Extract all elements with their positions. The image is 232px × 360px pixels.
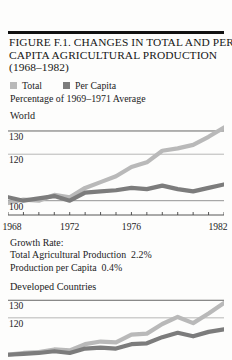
growth-rate-row-total: Total Agricultural Production 2.2%	[10, 249, 225, 261]
figure-title-line-3: (1968–1982)	[9, 61, 227, 74]
world-ytick-label-100: 100	[9, 202, 23, 212]
chart-plot-developed-countries: 130 120	[8, 295, 224, 360]
chart-legend: Total Per Capita	[10, 79, 225, 92]
xtick-label-1972: 1972	[60, 222, 79, 232]
panel-title-world: World	[10, 110, 35, 121]
top-rule-divider	[8, 31, 224, 34]
figure-title-line-1: FIGURE F.1. CHANGES IN TOTAL AND PER	[9, 36, 227, 49]
legend-item-per-capita: Per Capita	[63, 79, 116, 92]
chart-x-axis: 1968 1972 1976 1982	[8, 212, 224, 236]
figure-title: FIGURE F.1. CHANGES IN TOTAL AND PER CAP…	[9, 36, 227, 74]
xtick-label-1968: 1968	[2, 222, 21, 232]
growth-rate-row-per-capita-label: Production per Capita	[10, 262, 97, 273]
world-chart-svg	[8, 124, 224, 210]
figure-page: FIGURE F.1. CHANGES IN TOTAL AND PER CAP…	[0, 0, 232, 360]
growth-rate-row-per-capita: Production per Capita 0.4%	[10, 262, 225, 274]
figure-title-line-2: CAPITA AGRICULTURAL PRODUCTION	[9, 49, 227, 62]
legend-item-total: Total	[10, 79, 42, 92]
growth-rate-row-per-capita-value: 0.4%	[102, 262, 123, 273]
growth-rate-row-total-value: 2.2%	[131, 249, 152, 260]
legend-label-per-capita: Per Capita	[75, 81, 116, 91]
x-axis-ticks-svg	[8, 212, 224, 222]
legend-swatch-per-capita-icon	[63, 82, 70, 89]
growth-rate-block: Growth Rate: Total Agricultural Producti…	[10, 237, 225, 274]
chart-subtitle: Percentage of 1969–1971 Average	[10, 93, 146, 104]
growth-rate-row-total-label: Total Agricultural Production	[10, 249, 126, 260]
panel-title-developed-countries: Developed Countries	[10, 281, 96, 292]
developed-gridlines	[8, 300, 224, 318]
developed-ytick-label-130: 130	[9, 301, 23, 311]
world-ytick-label-130: 130	[9, 132, 23, 142]
world-ytick-label-120: 120	[9, 155, 23, 165]
growth-rate-heading: Growth Rate:	[10, 237, 225, 249]
developed-chart-svg	[8, 295, 224, 360]
legend-swatch-total-icon	[10, 82, 17, 89]
xtick-label-1976: 1976	[122, 222, 141, 232]
developed-ytick-label-120: 120	[9, 319, 23, 329]
chart-plot-world: 130 120 100	[8, 124, 224, 210]
world-series-per-capita-line	[8, 184, 224, 200]
xtick-label-1982: 1982	[208, 222, 227, 232]
legend-label-total: Total	[22, 81, 42, 91]
